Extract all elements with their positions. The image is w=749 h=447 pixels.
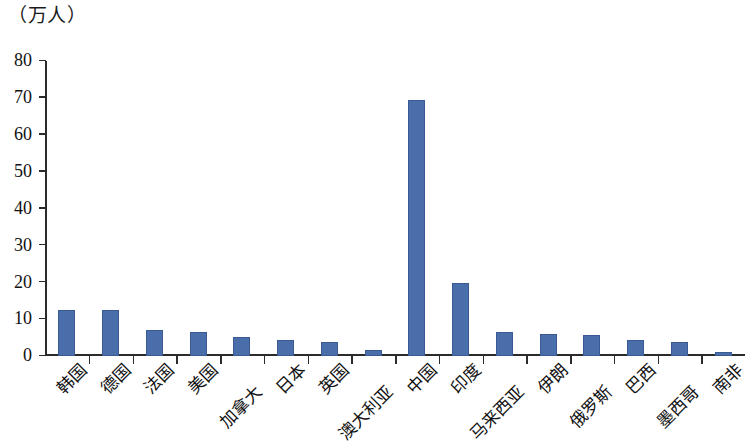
x-axis-labels: 韩国德国法国美国加拿大日本英国澳大利亚中国印度马来西亚伊朗俄罗斯巴西墨西哥南非 [45,361,749,447]
y-axis-unit-caption: （万人） [8,6,86,25]
x-axis-label: 巴西 [623,361,660,398]
y-axis-tick-label: 30 [14,235,32,253]
y-axis-tick: 40 [39,207,46,209]
x-axis-label: 马来西亚 [467,383,528,444]
x-axis-label: 印度 [448,361,485,398]
x-axis-label: 韩国 [54,361,91,398]
bar [58,310,75,356]
y-axis-tick-label: 70 [14,88,32,106]
bar [233,337,250,356]
x-axis-label: 法国 [141,361,178,398]
y-axis-tick-label: 80 [14,51,32,69]
x-axis-label: 墨西哥 [654,383,703,432]
bar [190,332,207,356]
x-axis-label: 伊朗 [535,361,572,398]
y-axis-tick: 70 [39,96,46,98]
x-axis-label: 英国 [316,361,353,398]
y-axis-tick: 10 [39,318,46,320]
bar [540,334,557,356]
bar [102,310,119,356]
bar [627,340,644,356]
y-axis-tick: 60 [39,133,46,135]
x-axis-label: 澳大利亚 [336,383,397,444]
bar [715,352,732,356]
y-axis-tick-label: 20 [14,272,32,290]
plot-area: 01020304050607080 [45,61,745,356]
y-axis-tick: 80 [39,60,46,62]
bar [452,283,469,356]
bar [583,335,600,356]
y-axis-tick: 30 [39,244,46,246]
y-axis-tick: 50 [39,170,46,172]
y-axis-tick-label: 50 [14,162,32,180]
bar [496,332,513,356]
bars-layer [45,61,745,356]
bar [671,342,688,356]
x-axis-label: 俄罗斯 [567,383,616,432]
x-axis-label: 日本 [273,361,310,398]
bar [365,350,382,356]
bar [146,330,163,356]
y-axis-tick: 20 [39,281,46,283]
y-axis-tick-label: 10 [14,309,32,327]
y-axis-tick-label: 40 [14,198,32,216]
y-axis-tick-label: 0 [23,346,32,364]
x-axis-label: 美国 [185,361,222,398]
y-axis-tick-label: 60 [14,125,32,143]
bar [321,342,338,356]
x-axis-label: 南非 [710,361,747,398]
x-axis-label: 加拿大 [217,383,266,432]
y-axis-tick: 0 [39,355,46,357]
x-axis-label: 中国 [404,361,441,398]
x-axis-label: 德国 [98,361,135,398]
bar [408,100,425,356]
bar-chart: （万人） 01020304050607080 韩国德国法国美国加拿大日本英国澳大… [0,0,749,447]
bar [277,340,294,356]
